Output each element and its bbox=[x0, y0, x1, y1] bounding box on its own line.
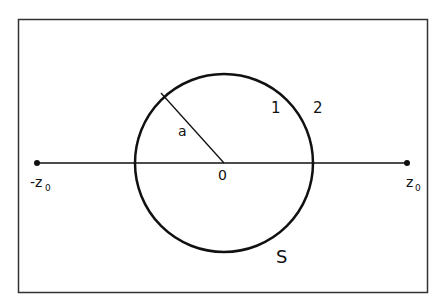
right-point bbox=[404, 160, 410, 166]
left-point-subscript: 0 bbox=[45, 183, 51, 193]
surface-label: S bbox=[276, 246, 287, 267]
sphere-diagram: a 0 1 2 S -z 0 z 0 bbox=[0, 0, 445, 308]
right-point-subscript: 0 bbox=[415, 183, 421, 193]
region-outer-label: 2 bbox=[313, 99, 323, 117]
region-inner-label: 1 bbox=[271, 99, 281, 117]
left-point bbox=[34, 160, 40, 166]
radius-line bbox=[161, 93, 224, 163]
center-label: 0 bbox=[218, 167, 227, 183]
radius-label: a bbox=[178, 123, 187, 139]
left-point-label: -z bbox=[30, 174, 42, 190]
right-point-label: z bbox=[406, 174, 413, 190]
